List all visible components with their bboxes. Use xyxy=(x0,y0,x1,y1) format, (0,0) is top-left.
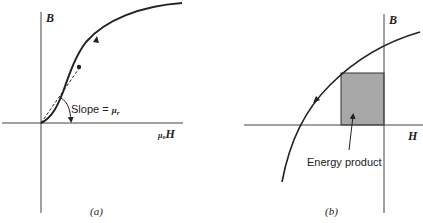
axis-label-b-b: B xyxy=(388,13,397,27)
energy-product-label: Energy product xyxy=(307,156,382,168)
axis-label-h-b: H xyxy=(407,129,418,143)
direction-arrow-icon xyxy=(93,36,99,43)
energy-product-area xyxy=(341,73,384,125)
panel-a: B Slope = μr μoH (a) xyxy=(2,3,183,218)
slope-label: Slope = μr xyxy=(71,103,120,117)
axis-label-h-a: μoH xyxy=(157,127,175,141)
axis-label-b-a: B xyxy=(45,11,54,25)
caption-a: (a) xyxy=(90,205,103,218)
operating-point xyxy=(77,65,81,69)
panel-b: B H Energy product (b) xyxy=(244,13,423,218)
slope-pointer-arrow xyxy=(61,98,71,120)
figure: B Slope = μr μoH (a) B H Energy product … xyxy=(0,0,423,223)
caption-b: (b) xyxy=(325,205,338,218)
